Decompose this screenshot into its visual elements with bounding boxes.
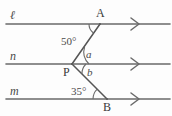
angle-arc-A (89, 24, 93, 33)
point-dot-P (71, 63, 73, 65)
point-label-P: P (63, 66, 70, 78)
point-label-A: A (96, 7, 105, 19)
angle-label-b: b (87, 67, 93, 78)
point-label-B: B (103, 101, 111, 113)
angle-arc-B (93, 89, 97, 99)
geometry-diagram: ℓ n m A P B 50° a b 35° (0, 0, 172, 116)
parallel-line-m (6, 93, 170, 105)
line-label-n: n (10, 50, 16, 62)
angle-label-a: a (86, 49, 92, 60)
angle-label-35: 35° (71, 86, 86, 97)
angle-arc-b (82, 64, 86, 74)
angle-label-50: 50° (61, 36, 76, 47)
line-label-l: ℓ (10, 9, 15, 21)
line-label-m: m (10, 85, 19, 97)
point-dot-A (99, 23, 101, 25)
parallel-line-l (6, 18, 170, 30)
